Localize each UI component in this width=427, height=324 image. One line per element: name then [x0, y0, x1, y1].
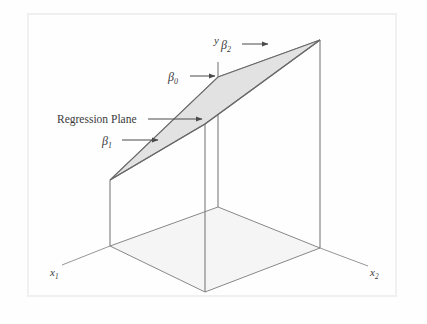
- x1-axis-ray: [62, 246, 110, 265]
- x2-axis-ray: [320, 248, 368, 266]
- regression-plane-label: Regression Plane: [57, 113, 137, 126]
- beta0-label: β0: [167, 70, 178, 86]
- beta1-label: β1: [101, 134, 112, 150]
- x2-axis-label: x2: [369, 266, 379, 281]
- regression-plane-figure: y β0 β2 Regression Plane β1 x1 x2: [0, 0, 427, 324]
- figure-canvas: y β0 β2 Regression Plane β1 x1 x2: [0, 0, 427, 324]
- x1-axis-label: x1: [49, 266, 59, 281]
- beta2-label: β2: [220, 38, 231, 54]
- y-axis-label: y: [213, 34, 219, 46]
